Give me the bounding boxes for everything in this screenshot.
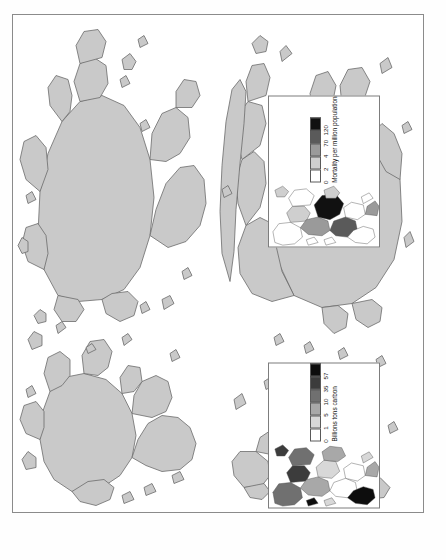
cut-off-caption-artifact <box>433 150 445 450</box>
mortality-colorbar <box>310 117 321 182</box>
mortality-tick-labels: 0 2 4 70 120 <box>322 123 329 182</box>
rotated-figure-stage: 0 1 5 10 35 57 Billions tons carbon <box>12 14 424 513</box>
carbon-legend-caption: Billions tons carbon <box>331 386 338 441</box>
mortality-legend: 0 2 4 70 120 Mortality per million popul… <box>269 96 379 184</box>
carbon-tick-labels: 0 1 5 10 35 57 <box>322 369 329 441</box>
mortality-legend-caption: Mortality per million population <box>331 96 338 182</box>
carbon-inset-map-svg <box>269 443 379 507</box>
mortality-tick-0: 0 <box>322 175 329 188</box>
carbon-swatch-3 <box>310 389 321 402</box>
carbon-tick-3: 10 <box>322 395 329 408</box>
mortality-legend-inset: 0 2 4 70 120 Mortality per million popul… <box>268 95 380 247</box>
carbon-swatch-2 <box>310 402 321 415</box>
carbon-colorbar <box>310 363 321 441</box>
mortality-inset-map <box>269 184 379 246</box>
mortality-tick-3: 70 <box>322 136 329 149</box>
mortality-swatch-3 <box>310 130 321 143</box>
carbon-emissions-cartogram <box>14 18 210 509</box>
cartogram-top-svg <box>14 18 210 509</box>
carbon-tick-1: 1 <box>322 421 329 434</box>
carbon-tick-5: 57 <box>322 369 329 382</box>
carbon-swatch-4 <box>310 376 321 389</box>
carbon-swatch-1 <box>310 415 321 428</box>
carbon-legend: 0 1 5 10 35 57 Billions tons carbon <box>269 363 379 443</box>
mortality-tick-1: 2 <box>322 162 329 175</box>
carbon-tick-4: 35 <box>322 382 329 395</box>
carbon-legend-inset: 0 1 5 10 35 57 Billions tons carbon <box>268 362 380 508</box>
mortality-tick-2: 4 <box>322 149 329 162</box>
mortality-swatch-1 <box>310 156 321 169</box>
carbon-tick-2: 5 <box>322 408 329 421</box>
carbon-swatch-0 <box>310 428 321 441</box>
carbon-inset-map <box>269 443 379 507</box>
carbon-tick-0: 0 <box>322 434 329 447</box>
carbon-swatch-5 <box>310 363 321 376</box>
mortality-swatch-2 <box>310 143 321 156</box>
mortality-swatch-4 <box>310 117 321 130</box>
mortality-swatch-0 <box>310 169 321 182</box>
mortality-inset-map-svg <box>269 184 379 246</box>
mortality-tick-4: 120 <box>322 123 329 136</box>
scanned-page: 0 1 5 10 35 57 Billions tons carbon <box>0 0 446 560</box>
